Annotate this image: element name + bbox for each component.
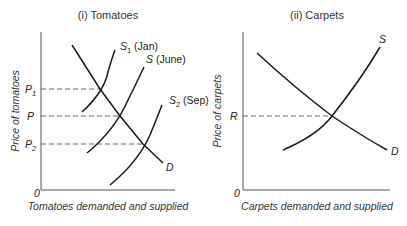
axes <box>243 32 390 190</box>
origin-label: 0 <box>234 187 240 199</box>
supply-curve-carpets <box>283 47 380 150</box>
curve-label-s2-sep: S2 (Sep) <box>169 94 209 109</box>
panel-title: (ii) Carpets <box>290 9 344 21</box>
price-label-p1: P1 <box>25 83 36 98</box>
curve-label-d: D <box>391 145 399 157</box>
price-label-p2: P2 <box>25 138 37 153</box>
x-axis-label: Carpets demanded and supplied <box>241 200 394 212</box>
curve-label-s-june: S (June) <box>146 53 186 65</box>
x-axis-label: Tomatoes demanded and supplied <box>28 200 190 212</box>
panel-title: (i) Tomatoes <box>78 9 139 21</box>
price-label-p: P <box>27 110 34 122</box>
curve-label-d: D <box>166 161 174 173</box>
panel-tomatoes: (i) Tomatoes Price of tomatoes Tomatoes … <box>9 9 209 212</box>
price-label-r: R <box>230 110 238 122</box>
panel-carpets: (ii) Carpets Price of carpets Carpets de… <box>211 9 399 212</box>
y-axis-label: Price of carpets <box>211 74 223 148</box>
supply-curve-s2-sep <box>110 105 162 185</box>
y-axis-label: Price of tomatoes <box>9 69 21 151</box>
origin-label: 0 <box>34 187 40 199</box>
supply-demand-diagram: (i) Tomatoes Price of tomatoes Tomatoes … <box>0 0 407 226</box>
curve-label-s: S <box>379 33 386 45</box>
